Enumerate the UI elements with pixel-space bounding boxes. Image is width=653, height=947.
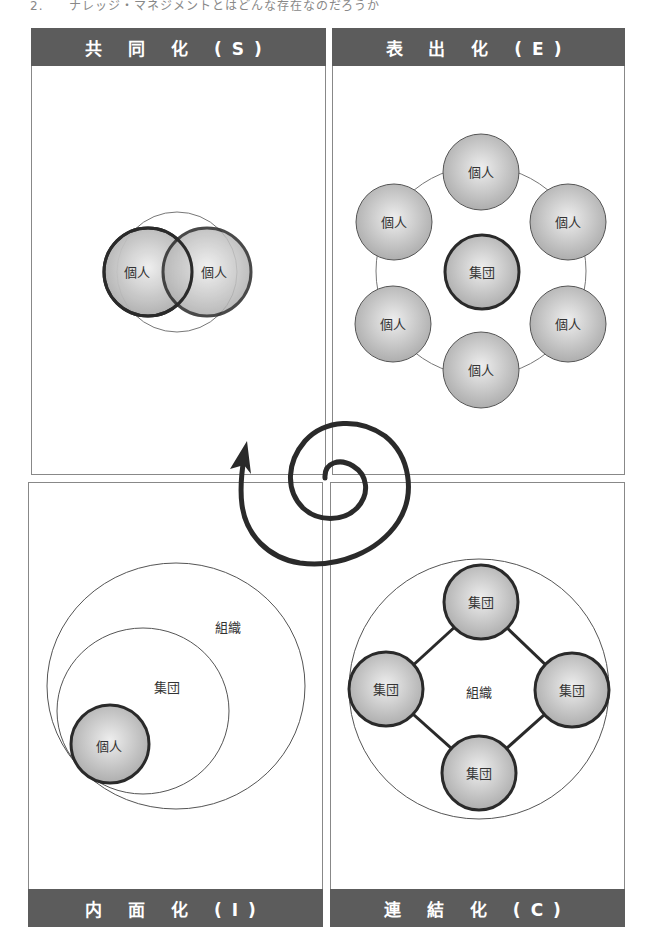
panel-internalization: 内 面 化 (I) bbox=[28, 482, 323, 927]
panel-title-externalization: 表 出 化 (E) bbox=[332, 28, 625, 66]
panel-title-internalization: 内 面 化 (I) bbox=[28, 889, 323, 927]
panel-externalization: 表 出 化 (E) bbox=[332, 28, 625, 475]
panel-combination: 連 結 化 (C) bbox=[330, 482, 625, 927]
page-caption: 2. ナレッジ・マネジメントとはどんな存在なのだろうか bbox=[30, 0, 380, 13]
panel-socialization: 共 同 化 (S) bbox=[31, 28, 326, 475]
panel-title-socialization: 共 同 化 (S) bbox=[31, 28, 326, 66]
panel-title-combination: 連 結 化 (C) bbox=[330, 889, 625, 927]
